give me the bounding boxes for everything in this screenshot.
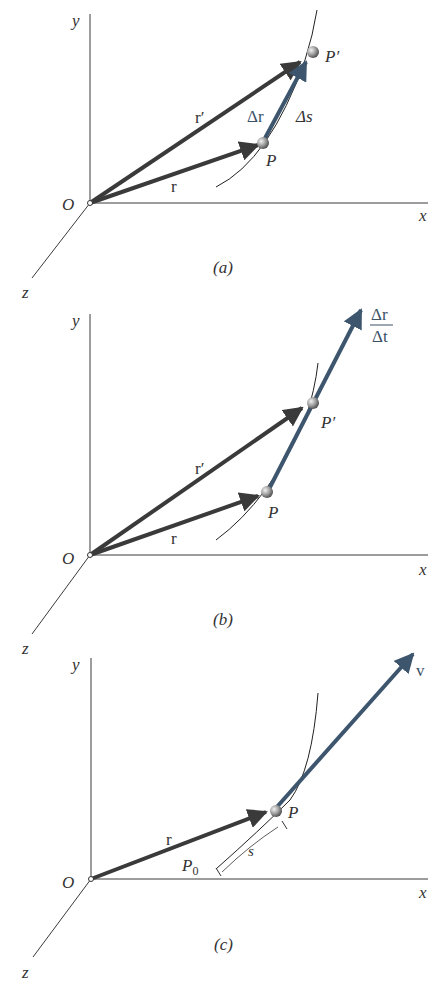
panel-a: y x z O r r′ Δr Δs P P′ (a) — [21, 10, 428, 302]
z-axis-label: z — [21, 963, 29, 982]
path-curve — [216, 693, 318, 869]
fraction-numerator: Δr — [371, 305, 388, 324]
P0-label: P0 — [181, 856, 198, 878]
x-axis-label: x — [418, 883, 427, 902]
r-label: r — [171, 529, 177, 548]
path-curve — [216, 363, 318, 540]
z-axis-label: z — [21, 283, 29, 302]
r-label: r — [166, 830, 172, 849]
delta-s-label: Δs — [295, 107, 313, 126]
P0-tick — [216, 868, 221, 876]
caption-b: (b) — [213, 610, 233, 629]
P-prime-label: P′ — [320, 413, 335, 432]
kinematics-figure: y x z O r r′ Δr Δs P P′ (a) y x z O r r′… — [0, 0, 448, 1000]
P-label: P — [287, 803, 298, 822]
r-prime-label: r′ — [195, 108, 204, 127]
z-axis — [32, 555, 90, 634]
position-vector-r — [91, 812, 266, 879]
fraction-denominator: Δt — [372, 327, 388, 346]
origin-point — [89, 877, 94, 882]
caption-c: (c) — [214, 935, 233, 954]
origin-point — [88, 553, 93, 558]
x-axis-label: x — [418, 206, 427, 225]
particle-P — [270, 805, 282, 817]
P-tick — [282, 821, 287, 829]
panel-b: y x z O r r′ P P′ Δr Δt (b) — [21, 305, 428, 658]
panel-c: y x z O r v P P0 s (c) — [21, 654, 428, 982]
origin-label: O — [62, 549, 74, 568]
position-vector-r-prime — [90, 408, 302, 555]
r-prime-label: r′ — [195, 459, 204, 478]
origin-label: O — [62, 195, 74, 214]
velocity-vector-v — [276, 654, 413, 808]
z-axis-label: z — [21, 639, 29, 658]
y-axis-label: y — [70, 311, 80, 330]
s-label: s — [248, 843, 254, 859]
P-label: P — [265, 151, 276, 170]
r-label: r — [171, 177, 177, 196]
particle-P — [261, 486, 273, 498]
particle-P — [257, 137, 269, 149]
origin-label: O — [62, 873, 74, 892]
y-axis-label: y — [70, 655, 80, 674]
P-label: P — [267, 503, 278, 522]
delta-r-label: Δr — [247, 107, 264, 126]
v-label: v — [416, 661, 425, 680]
y-axis-label: y — [70, 11, 80, 30]
x-axis-label: x — [418, 560, 427, 579]
origin-point — [88, 201, 93, 206]
particle-P-prime — [307, 397, 319, 409]
P-prime-label: P′ — [324, 47, 339, 66]
z-axis — [32, 203, 90, 278]
caption-a: (a) — [213, 258, 233, 277]
particle-P-prime — [307, 46, 319, 58]
